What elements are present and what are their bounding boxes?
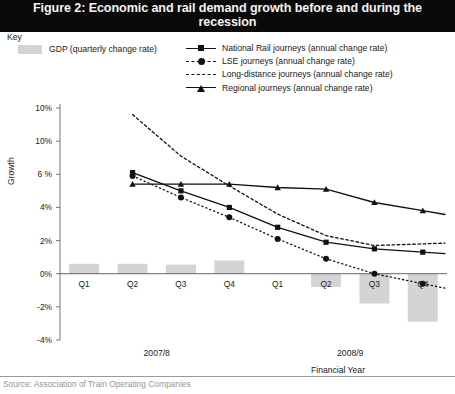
y-axis-tick-label: -2% (18, 302, 52, 312)
x-axis-quarter-label: Q2 (112, 279, 154, 289)
chart-plot-area: Growth 10%10%6 %4%2%0%-2%-4%Q1Q2Q3Q4Q1Q2… (0, 0, 455, 394)
y-axis-tick-label: -4% (18, 335, 52, 345)
source-divider (0, 376, 455, 377)
series-marker-square (178, 188, 183, 193)
gdp-bar (118, 264, 148, 274)
series-marker-circle (130, 173, 136, 179)
series-marker-square (420, 250, 425, 255)
x-axis-quarter-label: Q3 (353, 279, 395, 289)
series-marker-circle (275, 236, 281, 242)
series-marker-circle (371, 271, 377, 277)
gdp-bar (166, 265, 196, 274)
x-axis-title: Financial Year (278, 365, 398, 375)
y-axis-tick-label: 2% (18, 236, 52, 246)
x-axis-quarter-label: Q4 (208, 279, 250, 289)
y-axis-tick-label: 10% (18, 103, 52, 113)
x-axis-quarter-label: Q3 (160, 279, 202, 289)
y-axis-tick-label: 4% (18, 202, 52, 212)
y-axis-tick-label: 10% (18, 136, 52, 146)
series-marker-square (372, 246, 377, 251)
series-marker-square (275, 225, 280, 230)
y-axis-tick-label: 6 % (18, 169, 52, 179)
gdp-bar (69, 264, 99, 274)
series-marker-square (323, 240, 328, 245)
x-axis-year-label: 2008/9 (310, 348, 390, 358)
series-marker-square (227, 205, 232, 210)
x-axis-quarter-label: Q4 (402, 279, 444, 289)
x-axis-quarter-label: Q1 (257, 279, 299, 289)
series-line-2 (133, 115, 445, 246)
series-marker-circle (178, 194, 184, 200)
series-marker-circle (226, 214, 232, 220)
gdp-bar (214, 260, 244, 273)
chart-canvas (0, 0, 455, 394)
x-axis-quarter-label: Q2 (305, 279, 347, 289)
series-marker-circle (323, 256, 329, 262)
source-caption: Source: Association of Train Operating C… (3, 379, 191, 389)
y-axis-tick-label: 0% (18, 269, 52, 279)
x-axis-year-label: 2007/8 (117, 348, 197, 358)
x-axis-quarter-label: Q1 (63, 279, 105, 289)
